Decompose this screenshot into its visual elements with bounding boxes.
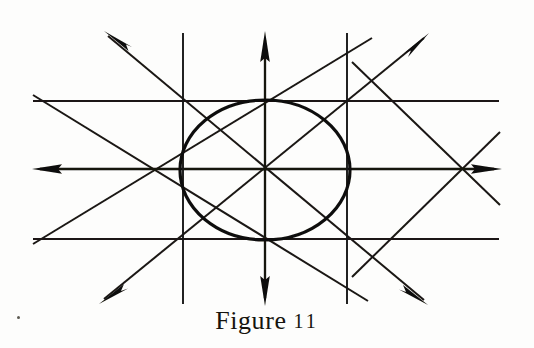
arrow-up-left-head — [104, 31, 132, 51]
arrow-down-right-head — [399, 285, 428, 305]
arrow-down-left-head — [99, 284, 128, 304]
arrow-left-head — [32, 164, 62, 174]
figure-caption-number: 11 — [287, 310, 319, 332]
figure-caption: Figure11 — [0, 306, 534, 336]
diagonal-line-right-upper-tail — [352, 62, 500, 205]
arrow-up-head — [260, 31, 270, 62]
figure-line-drawing — [0, 0, 534, 348]
arrow-right-head — [471, 164, 502, 174]
figure-caption-word: Figure — [215, 306, 286, 335]
diagonal-line-right-lower-tail — [352, 132, 500, 277]
arrow-down-head — [260, 276, 270, 306]
figure-container: Figure11 — [0, 0, 534, 348]
arrow-up-right-head — [405, 33, 430, 57]
center-point — [263, 167, 267, 171]
